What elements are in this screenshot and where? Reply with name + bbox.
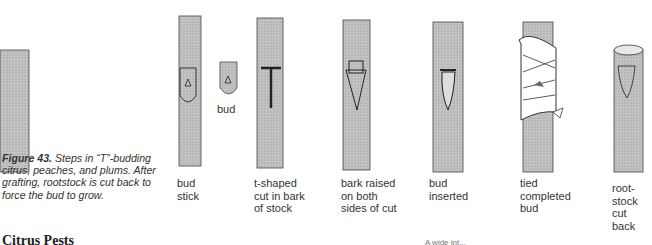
- figure-number: Figure 43.: [2, 152, 52, 164]
- label-tied-bud: tied completed bud: [520, 177, 571, 215]
- bud-drawing: [220, 62, 237, 94]
- label-cut-back: root- stock cut back: [612, 182, 638, 232]
- truncated-body-text: A wide int...: [425, 238, 466, 245]
- label-bud-inserted: bud inserted: [429, 177, 468, 202]
- tied-bud-drawing: [519, 22, 563, 172]
- label-bark-raised: bark raised on both sides of cut: [341, 177, 397, 215]
- bark-raised-drawing: [343, 20, 370, 170]
- label-bud-stick: bud stick: [177, 177, 199, 202]
- t-cut-drawing: [257, 18, 283, 168]
- label-bud: bud: [217, 103, 235, 116]
- label-t-cut: t-shaped cut in bark of stock: [254, 177, 305, 215]
- figure-caption: Figure 43. Steps in “T”-budding citrus, …: [2, 152, 160, 201]
- bud-stick-drawing: [179, 16, 201, 166]
- bud-inserted-drawing: [433, 22, 463, 172]
- section-heading: Citrus Pests: [2, 233, 74, 245]
